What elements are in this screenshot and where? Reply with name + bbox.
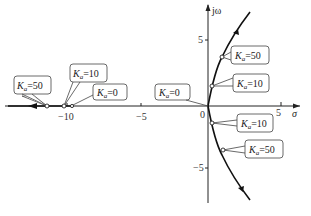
point-k10-lower [210,121,214,125]
point-k50-upper [220,55,224,59]
point-k50-lower [221,148,225,152]
tick-label-x-0: 0 [200,109,205,120]
tick-label-x-5: 5 [276,107,281,118]
point-k0-real [70,104,73,107]
callout-k0-origin: Ka=0 [155,84,208,106]
callout-k10-upper: Ka=10 [212,74,269,92]
jw-axis-label: jω [211,5,222,16]
tick-label-x-minus10: −10 [58,111,74,122]
callout-k50-upper: Ka=50 [222,46,269,64]
root-locus-diagram: −10 −5 0 5 5 −5 σ jω Ka=50 Ka=10 Ka=0 Ka… [0,0,311,216]
jw-axis-arrow [206,4,211,11]
point-k10-real [62,104,66,108]
real-locus-arrow [28,103,37,109]
tick-label-y-minus5: −5 [193,162,204,173]
point-k10-upper [210,84,214,88]
point-k50-real [45,104,49,108]
callout-k10-lower: Ka=10 [212,114,273,132]
sigma-axis-label: σ [292,108,298,119]
callout-k50-real: Ka=50 [14,76,51,106]
callout-k50-lower: Ka=50 [223,140,283,158]
callout-k0-real: Ka=0 [73,84,127,105]
tick-label-x-minus5: −5 [136,111,147,122]
tick-label-y-5: 5 [198,34,203,45]
